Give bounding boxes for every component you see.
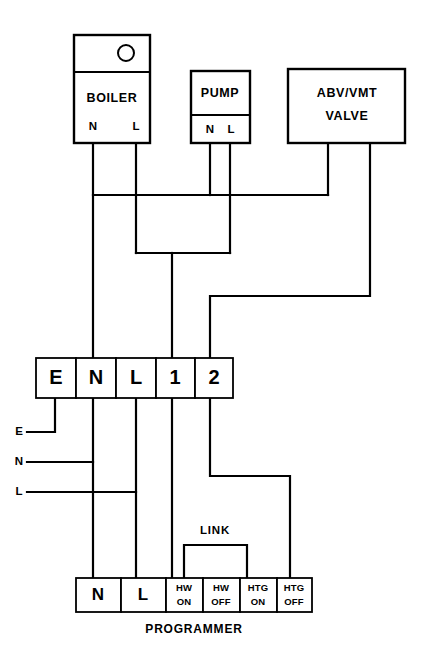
pump-terminal-N: N bbox=[206, 123, 214, 135]
programmer[interactable]: N L HW ON HW OFF HTG ON HTG OFF PROGRAMM… bbox=[76, 578, 312, 636]
unit-valve[interactable]: ABV/VMT VALVE bbox=[288, 69, 405, 143]
terminal-label-2: 2 bbox=[208, 366, 219, 388]
link-label: LINK bbox=[200, 524, 230, 536]
supply-labels: E N L bbox=[15, 425, 23, 497]
programmer-caption: PROGRAMMER bbox=[145, 622, 242, 636]
boiler-terminal-N: N bbox=[89, 120, 97, 132]
pump-body bbox=[191, 71, 250, 143]
wire-link-bridge bbox=[184, 545, 247, 578]
boiler-label: BOILER bbox=[87, 91, 138, 105]
boiler-indicator-lamp-icon bbox=[118, 45, 134, 61]
pump-terminal-L: L bbox=[227, 123, 234, 135]
programmer-label-htg-off-line2: OFF bbox=[284, 596, 304, 607]
supply-label-E: E bbox=[15, 425, 23, 437]
programmer-label-L: L bbox=[138, 585, 148, 604]
terminal-label-L: L bbox=[130, 366, 142, 388]
programmer-label-hw-off-line2: OFF bbox=[211, 596, 231, 607]
wire-earth-supply bbox=[27, 398, 55, 432]
valve-label-line-2: VALVE bbox=[326, 109, 369, 123]
terminal-label-N: N bbox=[89, 366, 103, 388]
supply-label-L: L bbox=[15, 485, 22, 497]
terminal-label-1: 1 bbox=[169, 366, 180, 388]
wiring-diagram: BOILER N L PUMP N L ABV/VMT VALVE E N bbox=[0, 0, 428, 671]
programmer-label-N: N bbox=[92, 585, 104, 604]
programmer-label-hw-on-line2: ON bbox=[177, 596, 192, 607]
boiler-terminal-L: L bbox=[132, 120, 139, 132]
terminal-strip[interactable]: E N L 1 2 bbox=[36, 358, 233, 398]
programmer-label-htg-on-line2: ON bbox=[251, 596, 266, 607]
programmer-label-htg-off-line1: HTG bbox=[284, 582, 305, 593]
supply-label-N: N bbox=[15, 455, 23, 467]
programmer-label-htg-on-line1: HTG bbox=[248, 582, 269, 593]
programmer-label-hw-on-line1: HW bbox=[176, 582, 192, 593]
programmer-label-hw-off-line1: HW bbox=[213, 582, 229, 593]
wire-valve-switched-live bbox=[210, 143, 370, 358]
valve-body bbox=[288, 69, 405, 143]
wiring-diagram-canvas: BOILER N L PUMP N L ABV/VMT VALVE E N bbox=[0, 0, 428, 671]
pump-label: PUMP bbox=[201, 86, 240, 100]
wire-terminal-2-to-htg-off bbox=[210, 398, 290, 578]
unit-boiler[interactable]: BOILER N L bbox=[74, 35, 150, 143]
unit-pump[interactable]: PUMP N L bbox=[191, 71, 250, 143]
valve-label-line-1: ABV/VMT bbox=[317, 86, 377, 100]
terminal-label-E: E bbox=[49, 366, 62, 388]
